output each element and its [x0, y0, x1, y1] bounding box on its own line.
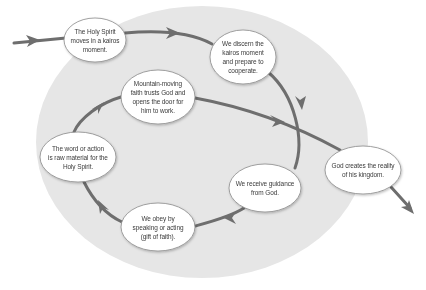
label-line: is raw material for the: [48, 153, 108, 162]
label-line: We receive guidance: [236, 179, 295, 188]
label-discern-kairos: We discern the kairos moment and prepare…: [213, 36, 272, 78]
label-god-creates: God creates the reality of his kingdom.: [328, 159, 398, 181]
label-line: opens the door for: [131, 97, 186, 106]
label-line: from God.: [236, 188, 295, 197]
label-line: of his kingdom.: [331, 170, 394, 179]
label-line: speaking or acting: [133, 223, 184, 232]
label-line: We obey by: [133, 214, 184, 223]
label-line: Mountain-moving: [131, 79, 186, 88]
label-line: The word or action: [48, 144, 108, 153]
label-receive-guidance: We receive guidance from God.: [232, 177, 299, 199]
label-line: faith trusts God and: [131, 88, 186, 97]
label-holy-spirit-moves: The Holy Spirit moves in a kairos moment…: [67, 22, 123, 58]
label-line: him to work.: [131, 106, 186, 115]
label-line: God creates the reality: [331, 161, 394, 170]
exit-arrow: [391, 187, 410, 208]
label-line: moment.: [71, 45, 120, 54]
entry-arrow: [14, 38, 66, 43]
label-line: The Holy Spirit: [71, 27, 120, 36]
label-word-or-action: The word or action is raw material for t…: [43, 141, 113, 173]
label-line: We discern the: [222, 39, 264, 48]
label-we-obey: We obey by speaking or acting (gift of f…: [124, 211, 192, 243]
label-line: (gift of faith).: [133, 232, 184, 241]
label-line: kairos moment: [222, 48, 264, 57]
label-line: and prepare to: [222, 57, 264, 66]
label-line: cooperate.: [222, 66, 264, 75]
label-mountain-moving-faith: Mountain-moving faith trusts God and ope…: [124, 76, 192, 118]
label-line: Holy Spirit.: [48, 162, 108, 171]
label-line: moves in a kairos: [71, 36, 120, 45]
